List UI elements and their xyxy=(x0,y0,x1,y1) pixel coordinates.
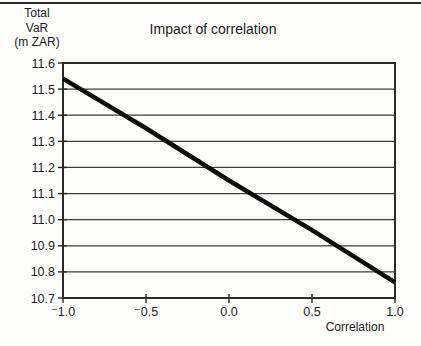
x-axis-tick-label: ⁻1.0 xyxy=(51,305,75,319)
x-axis-title: Correlation xyxy=(310,320,400,334)
x-axis-tick-label: ⁻0.5 xyxy=(134,305,158,319)
chart-page: Total VaR (m ZAR) Impact of correlation … xyxy=(0,0,421,346)
y-axis-tick-label: 10.9 xyxy=(31,239,55,253)
y-axis-tick-label: 11.6 xyxy=(32,57,55,71)
x-axis-tick-label: 0.5 xyxy=(303,305,320,319)
correlation-impact-chart: 11.611.511.411.311.211.111.010.910.810.7… xyxy=(0,0,421,346)
total-var-line xyxy=(63,79,395,283)
x-axis-tick-label: 0.0 xyxy=(220,305,237,319)
x-axis-tick-label: 1.0 xyxy=(386,305,403,319)
y-axis-tick-label: 11.2 xyxy=(32,161,55,175)
y-axis-tick-label: 11.1 xyxy=(32,187,55,201)
y-axis-tick-label: 10.7 xyxy=(31,292,55,306)
y-axis-tick-label: 10.8 xyxy=(31,265,55,279)
y-axis-tick-label: 11.5 xyxy=(32,83,55,97)
y-axis-tick-label: 11.4 xyxy=(32,109,55,123)
y-axis-tick-label: 11.3 xyxy=(32,135,55,149)
y-axis-tick-label: 11.0 xyxy=(32,213,55,227)
